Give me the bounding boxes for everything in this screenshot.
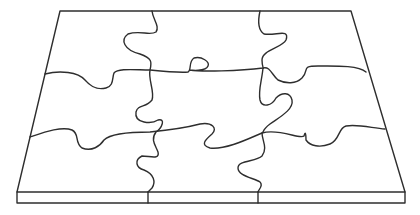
puzzle-seam-horizontal-lower bbox=[30, 124, 385, 150]
puzzle-seam-horizontal-upper bbox=[45, 58, 366, 89]
puzzle-seam-vertical-left bbox=[124, 11, 162, 192]
puzzle-front-edge bbox=[17, 192, 405, 203]
jigsaw-puzzle-illustration bbox=[0, 0, 420, 215]
puzzle-seam-vertical-right bbox=[238, 11, 292, 192]
puzzle-top-face-outline bbox=[17, 11, 405, 192]
